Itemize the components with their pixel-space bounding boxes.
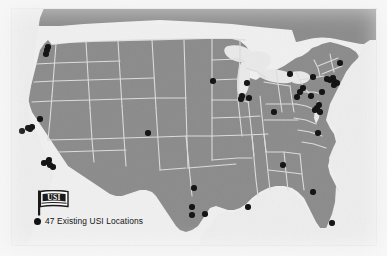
location-dot bbox=[308, 93, 313, 98]
location-dot bbox=[50, 164, 55, 169]
location-dot bbox=[310, 189, 315, 194]
logo-usi-text: USI bbox=[47, 193, 61, 202]
legend-label: 47 Existing USI Locations bbox=[45, 216, 143, 226]
location-dot bbox=[297, 89, 302, 94]
map-stage: USI 47 Existing USI Locations bbox=[0, 0, 387, 256]
location-dot bbox=[316, 102, 321, 107]
location-dot bbox=[317, 109, 322, 114]
location-dot bbox=[244, 80, 249, 85]
location-dot bbox=[287, 71, 292, 76]
location-dot bbox=[337, 60, 342, 65]
location-dot bbox=[27, 126, 32, 131]
location-dot bbox=[238, 96, 243, 101]
location-dot bbox=[319, 89, 324, 94]
location-dot bbox=[46, 157, 51, 162]
location-dot bbox=[210, 78, 215, 83]
location-dot bbox=[294, 94, 299, 99]
location-dot bbox=[37, 116, 42, 121]
location-dot bbox=[44, 47, 49, 52]
location-dot bbox=[315, 130, 320, 135]
location-dot bbox=[331, 82, 336, 87]
location-dot bbox=[271, 109, 276, 114]
location-dot bbox=[329, 220, 334, 225]
location-dot bbox=[19, 128, 24, 133]
location-dot bbox=[145, 130, 150, 135]
location-dot bbox=[280, 162, 285, 167]
legend-location-dot bbox=[34, 218, 41, 225]
usi-flag-logo: USI bbox=[36, 190, 80, 218]
location-dot bbox=[246, 95, 251, 100]
map-legend: USI 47 Existing USI Locations bbox=[34, 190, 204, 218]
legend-entry: 47 Existing USI Locations bbox=[34, 216, 143, 226]
location-dot bbox=[310, 74, 315, 79]
map-figure: USI 47 Existing USI Locations bbox=[0, 0, 387, 256]
location-dot bbox=[245, 204, 250, 209]
